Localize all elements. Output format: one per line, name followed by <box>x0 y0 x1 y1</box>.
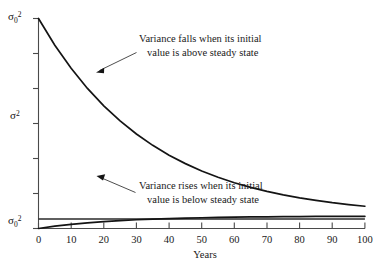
upper-annotation-line2: value is above steady state <box>147 47 259 58</box>
x-tick-label: 0 <box>36 234 41 245</box>
chart-figure: 0 10 20 30 40 50 60 70 80 90 100 Years V… <box>0 0 385 268</box>
lower-annotation-leader <box>97 174 136 192</box>
x-tick-label: 80 <box>294 234 305 245</box>
x-tick-label: 90 <box>327 234 338 245</box>
upper-annotation-line1: Variance falls when its initial <box>139 33 262 44</box>
x-tick-label: 50 <box>196 234 207 245</box>
sigma-superscript: 2 <box>18 10 22 19</box>
x-tick-label: 100 <box>357 234 373 245</box>
x-tick-label: 70 <box>262 234 273 245</box>
upper-leader-line <box>100 53 137 71</box>
x-tick-label: 60 <box>229 234 240 245</box>
y-axis-label-steady-state: σ2 <box>10 110 20 121</box>
variance-convergence-chart: 0 10 20 30 40 50 60 70 80 90 100 Years V… <box>0 0 385 268</box>
x-axis-tick-labels: 0 10 20 30 40 50 60 70 80 90 100 <box>36 234 373 245</box>
x-tick-label: 30 <box>131 234 142 245</box>
x-tick-label: 40 <box>164 234 175 245</box>
sigma-superscript: 2 <box>16 109 20 118</box>
x-axis-title: Years <box>193 249 216 260</box>
lower-arrowhead <box>97 174 106 180</box>
lower-annotation-text: Variance rises when its initial value is… <box>139 180 263 205</box>
lower-annotation-line2: value is below steady state <box>147 194 259 205</box>
y-axis-label-initial-low: σ02 <box>8 215 21 228</box>
upper-annotation-text: Variance falls when its initial value is… <box>139 33 262 58</box>
upper-annotation-leader <box>96 53 137 74</box>
y-axis-ticks <box>33 19 39 229</box>
lower-annotation-line1: Variance rises when its initial <box>139 180 263 191</box>
lower-leader-line <box>101 178 136 193</box>
x-tick-label: 10 <box>66 234 77 245</box>
x-tick-label: 20 <box>99 234 110 245</box>
y-axis-label-initial-high: σ02 <box>8 11 21 24</box>
upper-arrowhead <box>96 68 104 73</box>
sigma-superscript: 2 <box>18 214 22 223</box>
